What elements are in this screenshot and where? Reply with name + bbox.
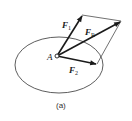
body-outline-ellipse [15,37,103,93]
vector-f2-arrow [57,56,96,64]
label-f2: F2 [68,65,78,76]
label-fr: FR [84,27,95,38]
label-f1: F1 [61,20,71,31]
force-diagram: A F1 FR F2 (a) [0,0,132,121]
label-point-a: A [46,52,53,62]
figure-caption: (a) [56,101,66,110]
parallelogram-top-edge [82,15,121,21]
point-a-marker [55,54,59,58]
